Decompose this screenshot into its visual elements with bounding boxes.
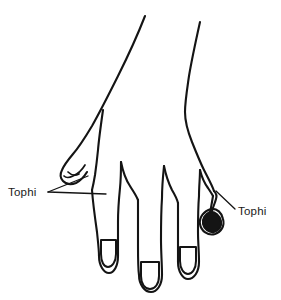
right-leader-line <box>216 191 235 209</box>
knuckle-index-middle <box>121 162 138 200</box>
right-tophi-label: Tophi <box>238 205 267 217</box>
hand-outline-group <box>61 16 224 292</box>
middle-finger-nail <box>141 262 159 289</box>
left-tophi-annotation: Tophi <box>8 176 106 198</box>
hand-ulnar-edge-outline <box>185 22 214 191</box>
left-leader-upper-branch <box>48 176 88 192</box>
hand-tophi-figure: Tophi Tophi <box>0 0 281 300</box>
ring-finger-right-outline <box>198 170 200 262</box>
little-finger-tophus <box>203 212 221 232</box>
right-tophi-annotation: Tophi <box>216 191 267 217</box>
index-finger-right-outline <box>118 162 121 256</box>
middle-finger-left-outline <box>138 200 139 275</box>
index-finger-nail <box>101 240 116 267</box>
index-finger-left-outline <box>92 190 99 256</box>
thumb-outline <box>61 16 145 184</box>
ring-finger-nail <box>180 247 196 274</box>
left-tophi-label: Tophi <box>8 186 37 198</box>
hand-illustration: Tophi Tophi <box>0 0 281 300</box>
middle-finger-right-outline <box>161 166 164 275</box>
left-leader-lower-branch <box>48 192 106 194</box>
knuckle-middle-ring <box>164 166 178 203</box>
